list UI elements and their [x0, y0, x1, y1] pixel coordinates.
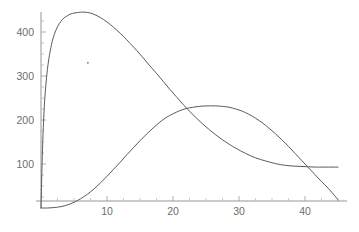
y-tick-label: 400 — [16, 26, 34, 38]
y-axis-tick-labels: 100200300400 — [16, 26, 34, 170]
x-axis-tick-labels: 10203040 — [101, 205, 311, 217]
axis-group — [36, 12, 347, 208]
y-tick-label: 300 — [16, 70, 34, 82]
x-tick-label: 10 — [101, 205, 113, 217]
x-tick-label: 20 — [167, 205, 179, 217]
x-tick-label: 40 — [299, 205, 311, 217]
chart-annotations — [87, 62, 89, 64]
curve-early-peak-curve — [41, 12, 338, 208]
curve-late-peak-curve — [41, 106, 338, 208]
stray-dot-marker — [87, 62, 89, 64]
chart-canvas: 10203040 100200300400 — [0, 0, 359, 232]
x-tick-label: 30 — [233, 205, 245, 217]
chart-plot-area: 10203040 100200300400 — [0, 0, 359, 232]
y-tick-label: 200 — [16, 114, 34, 126]
x-axis-ticks — [58, 196, 339, 201]
data-curves — [41, 12, 338, 208]
y-tick-label: 100 — [16, 158, 34, 170]
